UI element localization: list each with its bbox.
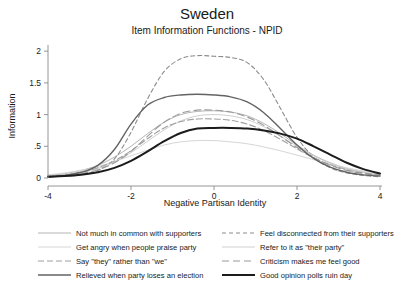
- x-tick-label: -4: [44, 191, 52, 201]
- y-tick-label: 2: [36, 46, 41, 56]
- chart-title: Sweden: [180, 5, 234, 22]
- legend-label-6: Relieved when party loses an election: [76, 271, 203, 280]
- item-information-functions-chart: Sweden Item Information Functions - NPID…: [0, 0, 414, 288]
- legend-label-3: Refer to it as "their party": [260, 243, 345, 252]
- x-tick-label: 4: [378, 191, 383, 201]
- y-tick-label: 1: [36, 110, 41, 120]
- chart-subtitle: Item Information Functions - NPID: [131, 25, 282, 36]
- chart-legend: Not much in common with supportersFeel d…: [38, 229, 394, 280]
- legend-label-1: Feel disconnected from their supporters: [260, 229, 394, 238]
- series-line-1: [48, 55, 380, 176]
- x-tick-label: -2: [127, 191, 135, 201]
- legend-label-2: Get angry when people praise party: [76, 243, 197, 252]
- legend-label-7: Good opinion polls ruin day: [260, 271, 352, 280]
- y-tick-label: 1.5: [29, 78, 41, 88]
- x-tick-label: 2: [295, 191, 300, 201]
- y-axis-label: Information: [7, 93, 17, 138]
- y-axis: 0.511.52: [29, 45, 48, 183]
- chart-container: Sweden Item Information Functions - NPID…: [0, 0, 414, 288]
- plot-area: [48, 55, 380, 176]
- y-tick-label: .5: [34, 141, 41, 151]
- legend-label-5: Criticism makes me feel good: [260, 257, 360, 266]
- x-axis-label: Negative Partisan Identity: [164, 198, 267, 208]
- y-tick-label: 0: [36, 173, 41, 183]
- legend-label-4: Say "they" rather than "we": [76, 257, 167, 266]
- legend-label-0: Not much in common with supporters: [76, 229, 202, 238]
